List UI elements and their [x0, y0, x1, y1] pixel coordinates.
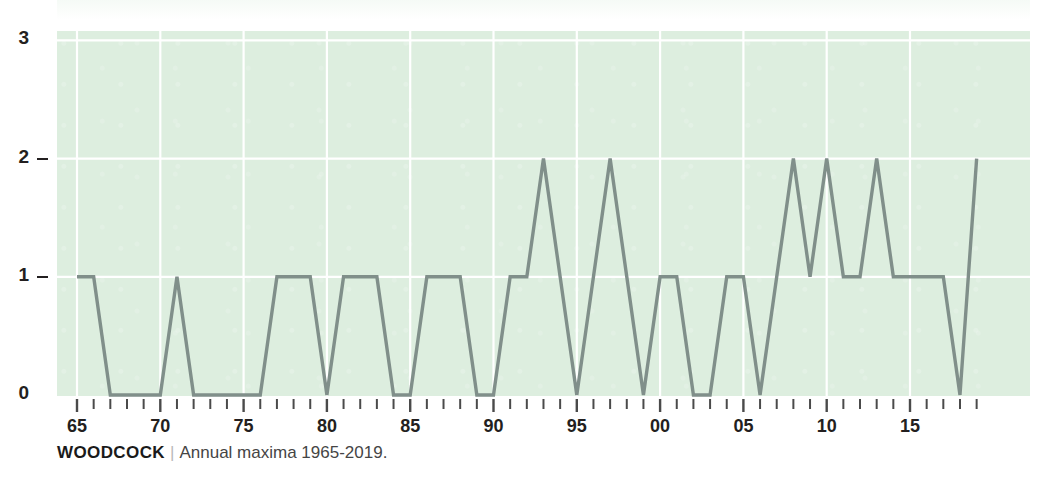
caption-description: Annual maxima 1965-2019. [179, 443, 387, 462]
caption-source: WOODCOCK [57, 443, 165, 462]
x-tick-label-15: 15 [888, 416, 932, 437]
x-tick-label-90: 90 [472, 416, 516, 437]
x-tick-label-70: 70 [138, 416, 182, 437]
x-tick-label-80: 80 [305, 416, 349, 437]
chart-figure: 0123 6570758085909500051015 WOODCOCK|Ann… [0, 0, 1043, 488]
x-tick-label-85: 85 [388, 416, 432, 437]
x-tick-label-10: 10 [805, 416, 849, 437]
y-tick-label-2: 2 [3, 146, 29, 168]
y-tick-dash-2 [37, 158, 48, 160]
x-tick-label-00: 00 [638, 416, 682, 437]
y-tick-label-3: 3 [3, 27, 29, 49]
y-tick-label-1: 1 [3, 264, 29, 286]
y-tick-dash-1 [37, 276, 48, 278]
axis-ticks [77, 399, 977, 412]
x-tick-label-05: 05 [721, 416, 765, 437]
y-tick-label-0: 0 [3, 382, 29, 404]
chart-canvas [0, 0, 1043, 488]
chart-caption: WOODCOCK|Annual maxima 1965-2019. [57, 443, 387, 463]
x-tick-label-95: 95 [555, 416, 599, 437]
caption-separator: | [170, 443, 174, 462]
x-tick-label-65: 65 [55, 416, 99, 437]
x-tick-label-75: 75 [222, 416, 266, 437]
